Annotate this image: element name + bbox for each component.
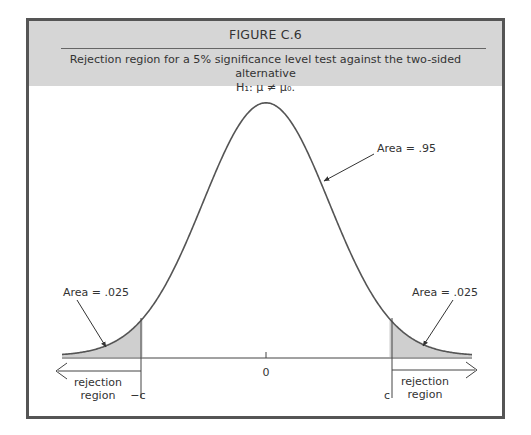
center-area-pointer [324,154,374,181]
center-area-label: Area = .95 [377,142,436,155]
left-region-label-1: rejection [74,376,122,389]
normal-density-curve [62,103,472,355]
right-rejection-shading [389,319,472,357]
normal-curve-plot: 0 −c c rejection region rejection region… [0,0,531,435]
zero-tick-label: 0 [263,366,270,379]
right-region-label-1: rejection [401,375,449,388]
left-rejection-shading [62,319,143,357]
left-area-label: Area = .025 [63,286,129,299]
left-region-label-2: region [81,389,116,402]
right-region-label-2: region [408,388,443,401]
pos-c-label: c [384,389,390,402]
neg-c-label: −c [130,389,145,402]
right-area-pointer [423,300,453,346]
right-area-label: Area = .025 [412,286,478,299]
left-area-pointer [77,300,106,347]
